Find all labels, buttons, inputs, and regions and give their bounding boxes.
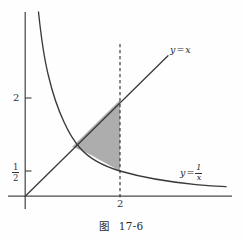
- hyperbola-curve: [39, 12, 227, 187]
- label-x-symbol: x: [185, 44, 190, 55]
- y-axis-tick-label-2: 2: [13, 93, 19, 103]
- hyper-fraction-numerator: 1: [195, 164, 202, 172]
- hyper-label-equals-symbol: =: [185, 167, 195, 178]
- line-y-equals-x: [25, 56, 168, 196]
- y-tick-2-text: 2: [13, 92, 19, 103]
- fraction-numerator: 1: [12, 163, 19, 172]
- fraction-one-half: 1 2: [12, 163, 19, 183]
- fraction-denominator: 2: [12, 174, 19, 183]
- label-equals-symbol: =: [175, 44, 185, 55]
- figure-caption: 图17-6: [0, 218, 243, 233]
- hyper-fraction-denominator: x: [195, 174, 202, 182]
- curve-label-y-equals-x: y=x: [170, 45, 191, 55]
- fraction-one-over-x: 1x: [195, 164, 202, 183]
- x-tick-2-text: 2: [117, 198, 123, 209]
- x-axis-tick-label-2: 2: [117, 199, 123, 209]
- caption-prefix: 图: [99, 220, 109, 232]
- curve-label-y-equals-one-over-x: y=1x: [180, 164, 202, 183]
- y-axis-tick-label-one-half: 1 2: [12, 163, 19, 183]
- figure-container: 2 1 2 2 y=x y=1x 图17-6: [0, 0, 243, 242]
- caption-number: 17-6: [119, 220, 144, 232]
